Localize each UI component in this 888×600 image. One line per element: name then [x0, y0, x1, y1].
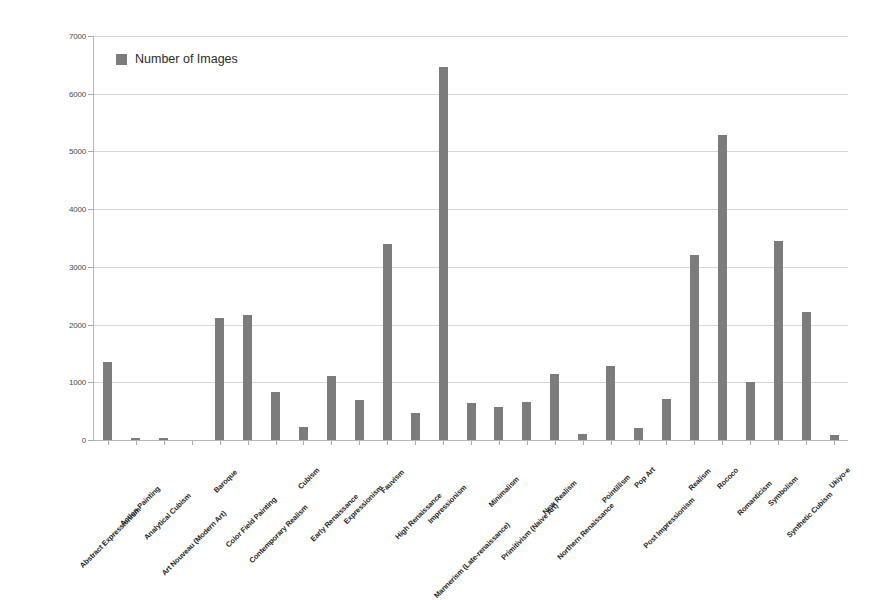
gridline	[94, 94, 848, 95]
x-axis-tick	[303, 441, 304, 445]
bar	[439, 67, 448, 440]
x-axis-tick-label: Symbolism	[766, 474, 800, 508]
bar	[578, 434, 587, 440]
x-axis-tick	[499, 441, 500, 445]
bar	[522, 402, 531, 440]
x-axis-tick-label: Post Impressionism	[642, 495, 697, 550]
y-axis-tick-label: 0	[82, 436, 86, 445]
x-axis-tick	[750, 441, 751, 445]
x-axis-tick	[192, 441, 193, 445]
x-axis-tick	[806, 441, 807, 445]
x-axis-tick-label: Rococo	[715, 466, 740, 491]
x-axis-tick-label: Mannerism (Late-renaissance)	[432, 520, 512, 600]
bar	[634, 428, 643, 440]
x-axis-tick-label: Realism	[687, 467, 713, 493]
x-axis-tick	[694, 441, 695, 445]
y-axis-tick-label: 5000	[69, 147, 86, 156]
legend-label: Number of Images	[135, 52, 238, 66]
bar	[271, 392, 280, 440]
gridline	[94, 382, 848, 383]
y-axis-tick-label: 6000	[69, 89, 86, 98]
x-axis-tick	[611, 441, 612, 445]
bar	[131, 438, 140, 440]
bar	[606, 366, 615, 440]
y-axis-tick-label: 7000	[69, 32, 86, 41]
gridline	[94, 267, 848, 268]
x-axis-tick-label: Minimalism	[487, 475, 521, 509]
bar	[215, 318, 224, 440]
bar	[494, 407, 503, 440]
x-axis-tick-label: Cubism	[296, 466, 321, 491]
bar	[550, 374, 559, 440]
gridline	[94, 209, 848, 210]
bar	[355, 400, 364, 440]
bar	[690, 255, 699, 440]
x-axis-tick	[471, 441, 472, 445]
x-axis-tick	[415, 441, 416, 445]
x-axis-tick-label: Synthetic Cubism	[785, 490, 834, 539]
bar	[243, 315, 252, 440]
x-axis-tick-label: New Realism	[540, 478, 578, 516]
bar	[327, 376, 336, 440]
plot-area	[94, 36, 848, 440]
bar	[159, 438, 168, 440]
x-axis-tick	[387, 441, 388, 445]
x-axis-tick	[583, 441, 584, 445]
bar	[802, 312, 811, 440]
bar	[383, 244, 392, 440]
y-axis-tick-label: 1000	[69, 378, 86, 387]
gridline	[94, 151, 848, 152]
x-axis-tick	[276, 441, 277, 445]
bar	[746, 382, 755, 440]
x-axis-tick	[834, 441, 835, 445]
x-axis-tick-label: Ukiyo-e	[827, 465, 852, 490]
x-axis-tick	[220, 441, 221, 445]
bar	[411, 413, 420, 440]
x-axis-tick	[164, 441, 165, 445]
x-axis-tick-label: Pop Art	[632, 465, 657, 490]
x-axis-tick	[722, 441, 723, 445]
bar	[662, 399, 671, 440]
x-axis-tick	[555, 441, 556, 445]
x-axis-tick	[359, 441, 360, 445]
chart-legend: Number of Images	[116, 52, 238, 66]
bar	[830, 435, 839, 440]
y-axis-tick-label: 4000	[69, 205, 86, 214]
bar	[103, 362, 112, 440]
gridline	[94, 36, 848, 37]
gridline	[94, 325, 848, 326]
bar	[718, 135, 727, 440]
x-axis-tick	[331, 441, 332, 445]
x-axis-tick	[639, 441, 640, 445]
x-axis-tick-label: Fauvism	[379, 468, 406, 495]
x-axis-tick-label: Pointillism	[600, 473, 632, 505]
x-axis-tick	[443, 441, 444, 445]
x-axis-tick	[527, 441, 528, 445]
bar	[299, 427, 308, 440]
y-axis-tick-label: 2000	[69, 320, 86, 329]
x-axis-tick	[778, 441, 779, 445]
x-axis-tick	[108, 441, 109, 445]
x-axis-tick-label: Baroque	[212, 468, 239, 495]
x-axis-tick	[136, 441, 137, 445]
bar	[774, 241, 783, 440]
y-axis-tick-label: 3000	[69, 262, 86, 271]
legend-swatch-icon	[116, 54, 127, 65]
x-axis-tick-label: Northern Renaissance	[555, 501, 615, 561]
x-axis-tick	[666, 441, 667, 445]
x-axis-tick	[248, 441, 249, 445]
bar	[467, 403, 476, 440]
